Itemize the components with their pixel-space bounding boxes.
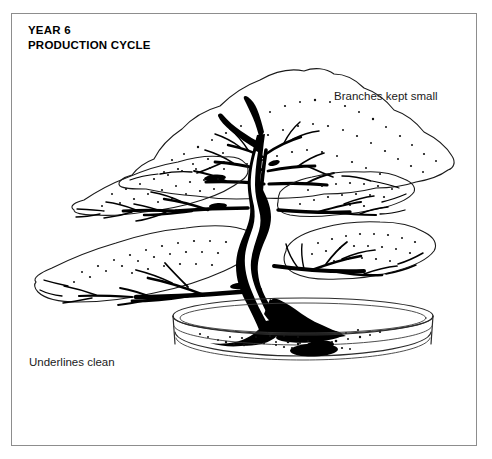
foliage-pad-right-lower: [274, 222, 436, 280]
annotation-branches-kept-small: Branches kept small: [334, 89, 438, 103]
branches-right-lower-pad: [274, 242, 423, 275]
foliage-pad-left-middle: [72, 156, 248, 221]
branches-top-pad: [130, 122, 399, 194]
figure-panel: YEAR 6PRODUCTION CYCLE Branches kept sma…: [11, 13, 477, 446]
foliage-pad-right-upper: [278, 172, 415, 217]
foliage-stipple-right-lower: [311, 233, 416, 262]
annotation-underlines-clean: Underlines clean: [29, 355, 115, 369]
pot: [173, 298, 433, 360]
page-title: YEAR 6PRODUCTION CYCLE: [28, 23, 151, 52]
foliage-pad-left-lower: [35, 226, 260, 305]
foliage-stipple-left-lower: [73, 240, 227, 283]
page-title-line-2: PRODUCTION CYCLE: [28, 39, 151, 51]
bonsai-tree-illustration: [12, 14, 477, 446]
page-title-line-1: YEAR 6: [28, 24, 71, 36]
